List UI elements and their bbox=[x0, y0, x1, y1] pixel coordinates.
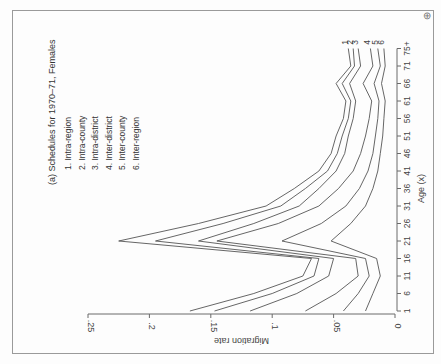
rate-tick-label: .1 bbox=[270, 322, 280, 330]
legend-item: 4. Inter-district bbox=[104, 116, 114, 170]
age-tick-label: 56 bbox=[402, 114, 412, 124]
legend-item: 5. Inter-county bbox=[117, 115, 127, 170]
age-tick-label: 16 bbox=[402, 254, 412, 264]
legend-item: 2. Intra-county bbox=[77, 115, 87, 170]
series-line-6 bbox=[331, 49, 385, 312]
age-tick-label: 1 bbox=[402, 308, 412, 313]
age-tick-label: 66 bbox=[402, 79, 412, 89]
rate-tick-label: .15 bbox=[209, 320, 219, 333]
chart-title: (a) Schedules for 1970–71, Females bbox=[47, 39, 57, 185]
series-line-4 bbox=[217, 49, 373, 312]
age-tick-label: 46 bbox=[402, 149, 412, 159]
series-end-label: 6 bbox=[376, 40, 386, 45]
age-tick-label: 36 bbox=[402, 184, 412, 194]
age-tick-label: 31 bbox=[402, 201, 412, 211]
figure-page: ⊕ 0.05.1.15.2.25Migration rate1611162126… bbox=[0, 0, 441, 364]
age-tick-label: 75+ bbox=[402, 41, 412, 55]
rate-tick-label: .2 bbox=[147, 322, 157, 330]
rate-axis-label: Migration rate bbox=[214, 336, 269, 346]
series-lines bbox=[119, 49, 386, 312]
age-tick-label: 26 bbox=[402, 219, 412, 229]
series-end-labels: 123456 bbox=[340, 40, 386, 45]
age-tick-label: 71 bbox=[402, 61, 412, 71]
age-axis-label: Age (x) bbox=[416, 174, 426, 203]
series-line-2 bbox=[156, 49, 355, 312]
age-tick-label: 61 bbox=[402, 96, 412, 106]
age-tick-label: 11 bbox=[402, 271, 412, 280]
rate-tick-label: .05 bbox=[332, 320, 342, 333]
legend-item: 3. Intra-district bbox=[90, 116, 100, 170]
rate-tick-label: 0 bbox=[393, 323, 403, 328]
rate-tick-label: .25 bbox=[86, 320, 96, 333]
legend-item: 6. Inter-region bbox=[131, 117, 141, 170]
series-line-3 bbox=[199, 49, 361, 312]
series-end-label: 3 bbox=[350, 40, 360, 45]
legend-item: 1. Intra-region bbox=[63, 117, 73, 170]
age-tick-label: 41 bbox=[402, 166, 412, 176]
legend: (a) Schedules for 1970–71, Females1. Int… bbox=[47, 39, 141, 185]
migration-chart: 0.05.1.15.2.25Migration rate161116212631… bbox=[0, 0, 441, 364]
age-tick-label: 6 bbox=[402, 291, 412, 296]
age-tick-label: 21 bbox=[402, 236, 412, 246]
age-tick-label: 51 bbox=[402, 131, 412, 141]
